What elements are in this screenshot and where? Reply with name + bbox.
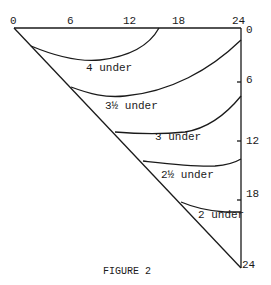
curve-label-2-5-under: 2½ under [161, 169, 214, 181]
curve-4-under [31, 28, 159, 60]
curve-label-4-under: 4 under [86, 62, 132, 74]
right-tick-6: 6 [246, 74, 253, 86]
right-tick-0: 0 [246, 24, 253, 36]
top-tick-6: 6 [67, 15, 74, 27]
right-tick-24: 24 [242, 259, 256, 271]
top-tick-24: 24 [232, 15, 246, 27]
top-tick-12: 12 [123, 15, 136, 27]
curve-label-2-under: 2 under [198, 209, 244, 221]
curve-label-3-under: 3 under [155, 131, 201, 143]
curve-label-3-5-under: 3½ under [105, 100, 158, 112]
curve-2-5-under [143, 159, 241, 166]
right-tick-12: 12 [246, 135, 259, 147]
figure-caption: FIGURE 2 [103, 266, 151, 277]
figure-diagram: 0 6 12 18 24 0 6 12 18 24 4 under 3½ und… [0, 0, 271, 285]
top-tick-18: 18 [172, 15, 185, 27]
right-tick-18: 18 [246, 188, 259, 200]
top-tick-0: 0 [10, 15, 17, 27]
